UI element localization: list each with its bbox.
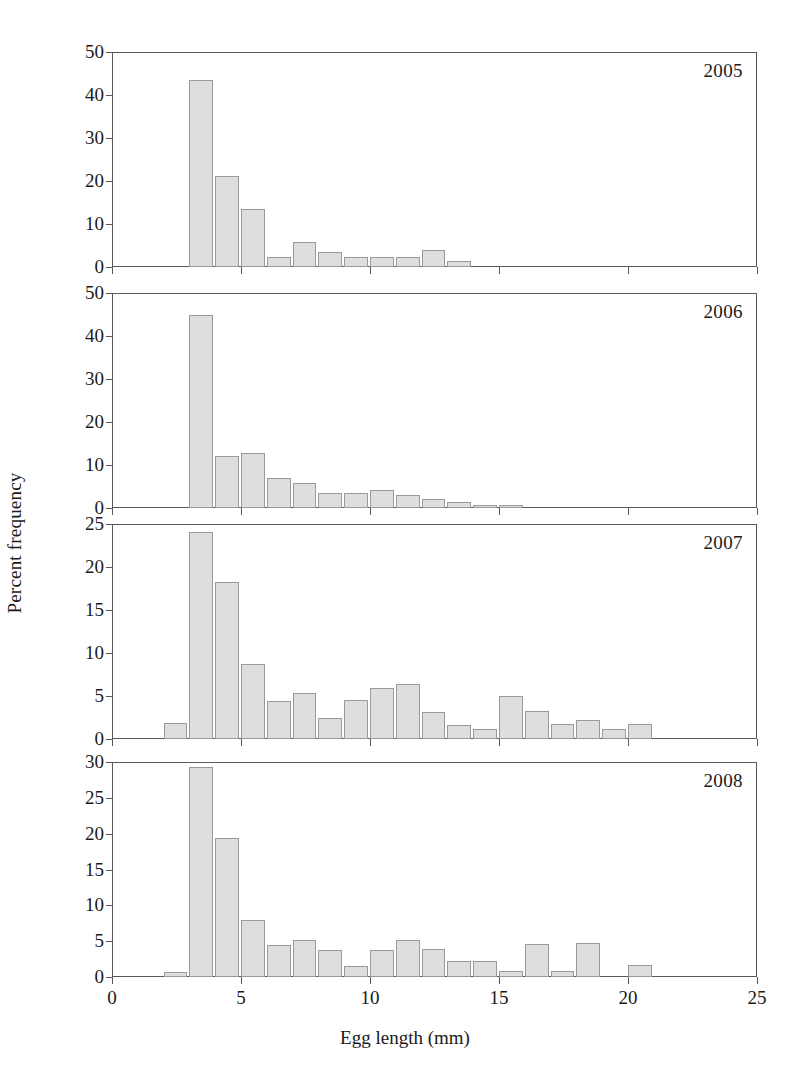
histogram-bar bbox=[189, 532, 213, 739]
histogram-bar bbox=[396, 257, 420, 267]
histogram-bar bbox=[241, 920, 265, 977]
y-tick-label: 30 bbox=[58, 751, 104, 773]
panel-2008: 05101520253005101520252008 bbox=[112, 762, 757, 977]
x-tick-mark bbox=[628, 508, 629, 515]
year-label-2005: 2005 bbox=[703, 60, 743, 82]
x-tick-label: 20 bbox=[619, 987, 638, 1009]
year-label-2007: 2007 bbox=[703, 532, 743, 554]
y-tick-label: 10 bbox=[58, 454, 104, 476]
y-tick-mark bbox=[106, 762, 112, 763]
x-tick-mark bbox=[628, 977, 629, 984]
histogram-bar bbox=[318, 718, 342, 740]
x-tick-mark bbox=[241, 267, 242, 274]
histogram-bar bbox=[318, 950, 342, 977]
histogram-bar bbox=[422, 499, 446, 508]
histogram-bar bbox=[447, 725, 471, 739]
histogram-bar bbox=[628, 965, 652, 977]
y-tick-mark bbox=[106, 95, 112, 96]
y-tick-label: 30 bbox=[58, 368, 104, 390]
histogram-bar bbox=[447, 261, 471, 267]
histogram-bar bbox=[370, 950, 394, 977]
x-tick-mark bbox=[112, 267, 113, 274]
histogram-bar bbox=[318, 252, 342, 267]
y-tick-mark bbox=[106, 905, 112, 906]
histogram-bar bbox=[422, 712, 446, 739]
panel-2007: 05101520252007 bbox=[112, 524, 757, 739]
y-tick-mark bbox=[106, 181, 112, 182]
histogram-bar bbox=[293, 242, 317, 267]
y-tick-label: 20 bbox=[58, 823, 104, 845]
histogram-bar bbox=[293, 483, 317, 508]
x-tick-mark bbox=[499, 739, 500, 746]
y-axis-title: Percent frequency bbox=[0, 0, 30, 1086]
x-tick-mark bbox=[499, 977, 500, 984]
x-tick-label: 0 bbox=[107, 987, 117, 1009]
histogram-bar bbox=[499, 696, 523, 739]
y-tick-label: 20 bbox=[58, 170, 104, 192]
histogram-bar bbox=[318, 493, 342, 508]
x-tick-mark bbox=[370, 977, 371, 984]
y-tick-label: 10 bbox=[58, 213, 104, 235]
y-axis-title-text: Percent frequency bbox=[4, 472, 26, 613]
x-tick-mark bbox=[370, 508, 371, 515]
y-tick-label: 50 bbox=[58, 282, 104, 304]
histogram-bar bbox=[499, 505, 523, 508]
histogram-bar bbox=[189, 767, 213, 977]
y-tick-mark bbox=[106, 138, 112, 139]
histogram-bar bbox=[473, 505, 497, 508]
histogram-bar bbox=[215, 582, 239, 739]
x-tick-mark bbox=[628, 267, 629, 274]
histogram-bar bbox=[215, 456, 239, 508]
histogram-bar bbox=[551, 971, 575, 977]
y-tick-mark bbox=[106, 941, 112, 942]
y-tick-label: 20 bbox=[58, 411, 104, 433]
x-tick-mark bbox=[241, 739, 242, 746]
x-tick-mark bbox=[499, 267, 500, 274]
panel-2006: 010203040502006 bbox=[112, 293, 757, 508]
x-tick-label: 5 bbox=[236, 987, 246, 1009]
x-tick-label: 15 bbox=[490, 987, 509, 1009]
y-tick-label: 5 bbox=[58, 930, 104, 952]
histogram-bar bbox=[370, 688, 394, 739]
x-tick-mark bbox=[499, 508, 500, 515]
y-tick-mark bbox=[106, 870, 112, 871]
histogram-bar bbox=[189, 80, 213, 267]
x-tick-mark bbox=[112, 977, 113, 984]
histogram-bar bbox=[267, 257, 291, 267]
histogram-bar bbox=[370, 257, 394, 267]
y-tick-label: 10 bbox=[58, 894, 104, 916]
histogram-bar bbox=[344, 493, 368, 508]
histogram-bar bbox=[473, 961, 497, 977]
x-tick-label: 25 bbox=[748, 987, 767, 1009]
x-tick-mark bbox=[112, 739, 113, 746]
y-tick-mark bbox=[106, 524, 112, 525]
histogram-bar bbox=[344, 966, 368, 977]
panel-2005: 010203040502005 bbox=[112, 52, 757, 267]
y-tick-label: 0 bbox=[58, 728, 104, 750]
histogram-bar bbox=[164, 723, 188, 739]
x-axis-title: Egg length (mm) bbox=[0, 1027, 810, 1049]
histogram-bar bbox=[267, 701, 291, 739]
y-tick-mark bbox=[106, 834, 112, 835]
y-tick-label: 10 bbox=[58, 642, 104, 664]
histogram-bar bbox=[396, 495, 420, 508]
y-tick-mark bbox=[106, 610, 112, 611]
x-tick-mark bbox=[241, 977, 242, 984]
histogram-bar bbox=[267, 945, 291, 977]
histogram-bar bbox=[628, 724, 652, 739]
histogram-bar bbox=[525, 944, 549, 977]
y-tick-mark bbox=[106, 422, 112, 423]
y-tick-label: 20 bbox=[58, 556, 104, 578]
y-tick-mark bbox=[106, 293, 112, 294]
histogram-bar bbox=[344, 700, 368, 739]
y-tick-label: 15 bbox=[58, 599, 104, 621]
y-tick-mark bbox=[106, 336, 112, 337]
year-label-2008: 2008 bbox=[703, 770, 743, 792]
y-tick-label: 15 bbox=[58, 859, 104, 881]
histogram-bar bbox=[576, 943, 600, 977]
histogram-bar bbox=[241, 664, 265, 739]
y-tick-mark bbox=[106, 379, 112, 380]
histogram-bar bbox=[447, 502, 471, 508]
y-tick-mark bbox=[106, 653, 112, 654]
histogram-bar bbox=[525, 711, 549, 739]
